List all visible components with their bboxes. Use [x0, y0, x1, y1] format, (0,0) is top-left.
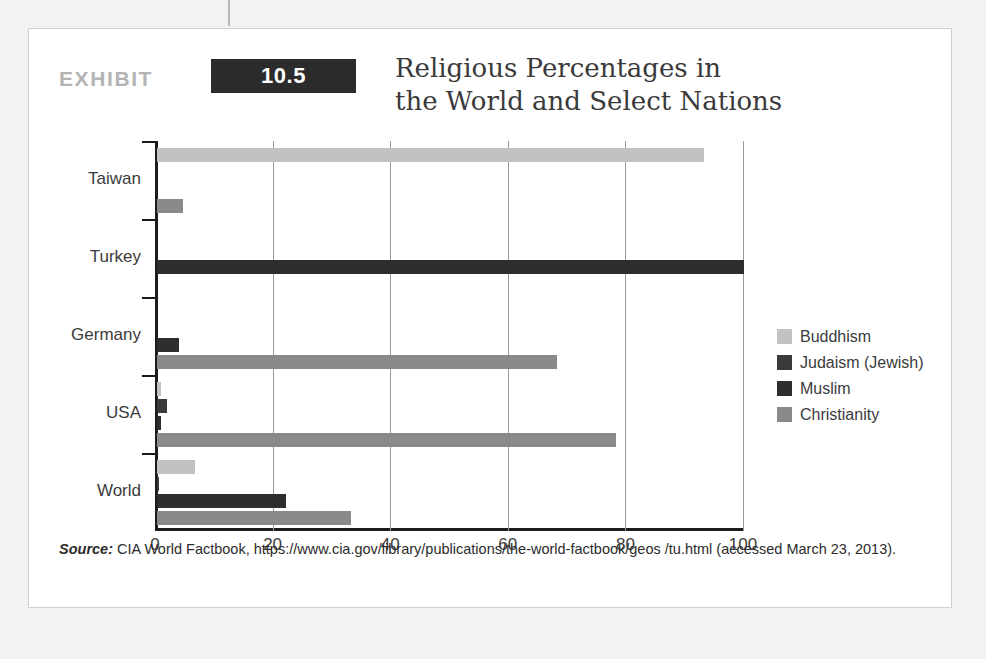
legend-swatch-icon	[777, 355, 792, 370]
bar	[157, 199, 183, 213]
exhibit-number-badge: 10.5	[211, 59, 356, 93]
category-label-germany: Germany	[71, 325, 141, 345]
gridline	[390, 141, 391, 531]
exhibit-header: EXHIBIT 10.5 Religious Percentages in th…	[59, 47, 919, 137]
bar	[157, 355, 557, 369]
category-tick	[142, 453, 155, 455]
gridline	[625, 141, 626, 531]
bar	[157, 460, 195, 474]
legend-item: Muslim	[777, 377, 947, 400]
bar	[157, 399, 167, 413]
category-tick	[142, 297, 155, 299]
source-note: Source:CIA World Factbook, https://www.c…	[59, 539, 919, 560]
legend-item: Judaism (Jewish)	[777, 351, 947, 374]
bar	[157, 382, 161, 396]
legend-label: Muslim	[800, 380, 851, 398]
bar	[157, 148, 704, 162]
legend-item: Christianity	[777, 403, 947, 426]
exhibit-label: EXHIBIT	[59, 67, 153, 91]
source-text: CIA World Factbook, https://www.cia.gov/…	[117, 541, 896, 557]
gridline	[743, 141, 744, 531]
legend-swatch-icon	[777, 407, 792, 422]
exhibit-card: EXHIBIT 10.5 Religious Percentages in th…	[28, 28, 952, 608]
category-tick	[142, 219, 155, 221]
category-label-usa: USA	[106, 403, 141, 423]
category-tick	[142, 375, 155, 377]
legend-label: Buddhism	[800, 328, 871, 346]
exhibit-number: 10.5	[211, 59, 356, 93]
category-label-taiwan: Taiwan	[88, 169, 141, 189]
bar	[157, 494, 286, 508]
source-label: Source:	[59, 541, 113, 557]
bar	[157, 338, 179, 352]
bar	[157, 511, 351, 525]
bar	[157, 433, 616, 447]
legend-item: Buddhism	[777, 325, 947, 348]
gridline	[273, 141, 274, 531]
bar	[157, 260, 744, 274]
page-margin-rule	[228, 0, 230, 26]
category-label-world: World	[97, 481, 141, 501]
bar	[157, 416, 161, 430]
chart-legend: BuddhismJudaism (Jewish)MuslimChristiani…	[777, 325, 947, 429]
category-axis-labels: WorldUSAGermanyTurkeyTaiwan	[29, 141, 141, 531]
exhibit-title: Religious Percentages in the World and S…	[395, 52, 915, 118]
legend-swatch-icon	[777, 329, 792, 344]
plot-area	[155, 141, 743, 531]
chart: WorldUSAGermanyTurkeyTaiwan 020406080100…	[29, 129, 951, 549]
category-label-turkey: Turkey	[90, 247, 141, 267]
gridline	[508, 141, 509, 531]
category-tick	[142, 141, 155, 143]
x-axis-line	[155, 528, 743, 531]
legend-swatch-icon	[777, 381, 792, 396]
page-background: EXHIBIT 10.5 Religious Percentages in th…	[0, 0, 986, 659]
bar	[157, 477, 159, 491]
legend-label: Christianity	[800, 406, 879, 424]
legend-label: Judaism (Jewish)	[800, 354, 924, 372]
